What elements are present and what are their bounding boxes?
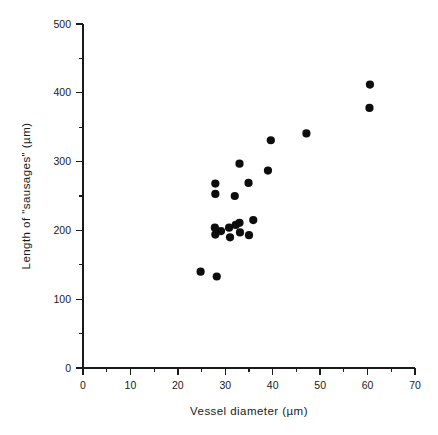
data-point [211, 190, 219, 198]
x-tick-label: 50 [314, 379, 326, 391]
y-tick-label: 200 [53, 224, 71, 236]
y-tick-label: 300 [53, 155, 71, 167]
data-point [249, 216, 257, 224]
y-axis-title: Length of "sausages" (µm) [20, 123, 32, 270]
x-tick-label: 60 [362, 379, 374, 391]
data-point [197, 268, 205, 276]
plot-canvas: 0100200300400500 010203040506070 Vessel … [0, 0, 438, 435]
data-points [197, 80, 375, 280]
data-point [366, 80, 374, 88]
x-axis-tick-labels: 010203040506070 [80, 379, 421, 391]
data-point [245, 231, 253, 239]
data-point [236, 228, 244, 236]
x-tick-label: 40 [267, 379, 279, 391]
data-point [211, 180, 219, 188]
data-point [302, 129, 310, 137]
y-axis-tick-labels: 0100200300400500 [53, 18, 71, 374]
data-point [244, 179, 252, 187]
data-point [213, 272, 221, 280]
x-tick-label: 70 [409, 379, 421, 391]
data-point [226, 233, 234, 241]
y-tick-label: 500 [53, 18, 71, 30]
x-tick-label: 30 [219, 379, 231, 391]
data-point [365, 104, 373, 112]
y-axis [76, 24, 83, 368]
data-point [264, 166, 272, 174]
y-tick-label: 0 [65, 362, 71, 374]
x-tick-label: 10 [125, 379, 137, 391]
x-tick-label: 20 [172, 379, 184, 391]
data-point [232, 221, 240, 229]
data-point [217, 227, 225, 235]
data-point [231, 192, 239, 200]
scatter-plot-figure: 0100200300400500 010203040506070 Vessel … [0, 0, 438, 435]
y-tick-label: 400 [53, 86, 71, 98]
x-axis-title: Vessel diameter (µm) [190, 405, 308, 417]
y-tick-label: 100 [53, 293, 71, 305]
x-tick-label: 0 [80, 379, 86, 391]
data-point [267, 136, 275, 144]
x-axis [83, 368, 415, 375]
data-point [235, 160, 243, 168]
